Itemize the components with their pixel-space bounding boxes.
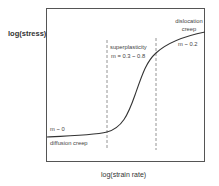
superplasticity-slope-label: m = 0.3 ~ 0.8 — [111, 54, 145, 60]
y-axis-label: log(stress) — [8, 30, 46, 38]
superplasticity-label: superplasticity — [110, 45, 147, 51]
diffusion-creep-label: diffusion creep — [50, 141, 88, 147]
x-axis-label: log(strain rate) — [101, 171, 146, 178]
dislocation-label-line1: dislocation — [172, 19, 206, 25]
diffusion-slope-label: m ~ 0 — [50, 127, 65, 133]
dislocation-slope-label: m ~ 0.2 — [178, 42, 198, 48]
dislocation-label-line2: creep — [172, 27, 206, 33]
